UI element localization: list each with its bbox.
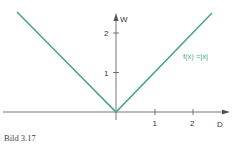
y-axis-arrow-icon	[114, 13, 119, 21]
x-axis-label: D	[217, 120, 223, 129]
x-axis-arrow-icon	[222, 110, 230, 115]
x-tick-label-1: 1	[153, 119, 158, 128]
y-tick-label-2: 2	[104, 29, 109, 38]
y-axis-label: W	[120, 15, 128, 24]
function-label: f(x) =|x|	[183, 52, 208, 61]
chart-canvas: 1 2 1 2 D W f(x) =|x|	[0, 0, 235, 148]
x-tick-label-2: 2	[190, 119, 195, 128]
function-line-abs	[17, 12, 212, 112]
figure-caption: Bild 3.17	[4, 133, 36, 143]
y-tick-label-1: 1	[104, 69, 109, 78]
